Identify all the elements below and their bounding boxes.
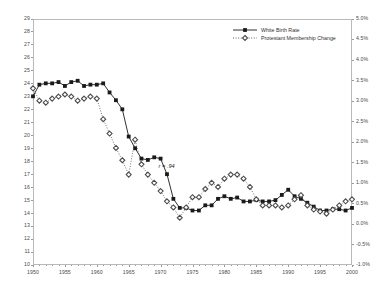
data-point <box>37 83 41 87</box>
data-point <box>113 145 118 150</box>
data-point <box>57 80 61 84</box>
data-point <box>350 206 354 210</box>
data-point <box>197 209 201 213</box>
data-point <box>280 193 284 197</box>
legend-label: Protestant Membership Change <box>261 35 336 42</box>
data-point <box>344 209 348 213</box>
data-point <box>120 107 124 111</box>
data-point <box>114 98 118 102</box>
legend-key-icon <box>232 26 258 34</box>
data-point <box>89 83 93 87</box>
data-point <box>216 197 220 201</box>
data-point <box>69 94 74 99</box>
data-point <box>279 205 284 210</box>
data-point <box>248 200 252 204</box>
data-point <box>146 158 150 162</box>
data-point <box>190 195 195 200</box>
chart-legend: White Birth RateProtestant Membership Ch… <box>232 26 336 42</box>
data-point <box>228 172 233 177</box>
data-point <box>191 209 195 213</box>
data-point <box>171 197 175 201</box>
data-point <box>210 203 214 207</box>
series-line <box>33 81 352 211</box>
data-point <box>286 188 290 192</box>
data-point <box>50 96 55 101</box>
data-point <box>133 137 138 142</box>
data-point <box>196 195 201 200</box>
data-point <box>337 203 342 208</box>
legend-marker <box>243 28 247 32</box>
legend-item-2[interactable]: Protestant Membership Change <box>232 34 336 42</box>
data-point <box>159 157 163 161</box>
data-point <box>203 203 207 207</box>
data-point <box>177 215 182 220</box>
data-point <box>164 199 169 204</box>
data-point <box>216 184 221 189</box>
legend-marker <box>243 36 248 41</box>
data-point <box>94 96 99 101</box>
data-point <box>37 98 42 103</box>
data-point <box>165 172 169 176</box>
data-point <box>235 196 239 200</box>
data-point <box>260 203 265 208</box>
data-point <box>286 203 291 208</box>
chart-container: 1011121314151617181920212223242526272829… <box>0 0 387 292</box>
data-point <box>139 162 144 167</box>
data-point <box>267 203 272 208</box>
data-point <box>69 80 73 84</box>
data-point <box>350 197 355 202</box>
legend-label: White Birth Rate <box>261 27 300 34</box>
data-point <box>274 198 278 202</box>
data-point <box>101 117 106 122</box>
data-point <box>235 172 240 177</box>
legend-key-icon <box>232 34 258 42</box>
data-point <box>62 92 67 97</box>
data-point <box>63 84 67 88</box>
series-2 <box>31 86 355 220</box>
data-point <box>50 81 54 85</box>
data-point <box>107 131 112 136</box>
data-point <box>222 176 227 181</box>
data-point <box>108 91 112 95</box>
data-point <box>223 194 227 198</box>
data-point <box>82 96 87 101</box>
data-point <box>95 83 99 87</box>
data-point <box>178 206 182 210</box>
data-point <box>273 203 278 208</box>
data-point <box>127 135 131 139</box>
data-point <box>82 84 86 88</box>
series-1 <box>31 79 354 213</box>
data-point <box>56 94 61 99</box>
data-point <box>76 79 80 83</box>
data-point <box>242 200 246 204</box>
data-point <box>43 100 48 105</box>
correlation-annotation: r = .94 <box>159 163 175 169</box>
data-point <box>229 197 233 201</box>
data-point <box>120 158 125 163</box>
legend-item-1[interactable]: White Birth Rate <box>232 26 336 34</box>
data-point <box>203 186 208 191</box>
data-point <box>126 172 131 177</box>
data-point <box>44 81 48 85</box>
data-point <box>152 155 156 159</box>
data-point <box>31 86 36 91</box>
data-point <box>88 94 93 99</box>
data-point <box>75 98 80 103</box>
data-point <box>343 199 348 204</box>
data-point <box>31 94 35 98</box>
data-point <box>101 81 105 85</box>
plot-svg <box>0 0 387 292</box>
data-point <box>298 193 303 198</box>
